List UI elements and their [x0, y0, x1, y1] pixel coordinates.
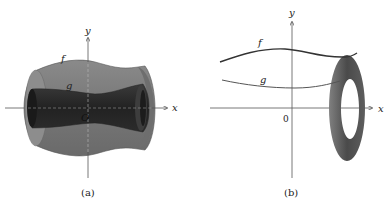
origin-label-a: O — [81, 112, 89, 123]
diagram-canvas: x y f g O (a) x y f g 0 (b) — [0, 0, 386, 206]
figure-b: x y f g 0 (b) — [210, 7, 384, 198]
x-label-b: x — [378, 103, 384, 114]
g-label-b: g — [260, 74, 266, 85]
y-label-a: y — [84, 25, 91, 36]
f-curve — [220, 49, 357, 62]
f-label-b: f — [257, 37, 264, 48]
g-curve — [222, 80, 340, 88]
g-label-a: g — [66, 80, 72, 91]
caption-b: (b) — [284, 187, 298, 198]
x-label-a: x — [172, 102, 178, 113]
figure-a: x y f g O (a) — [5, 25, 178, 198]
origin-label-b: 0 — [283, 114, 289, 124]
caption-a: (a) — [81, 187, 95, 198]
y-label-b: y — [288, 7, 295, 18]
